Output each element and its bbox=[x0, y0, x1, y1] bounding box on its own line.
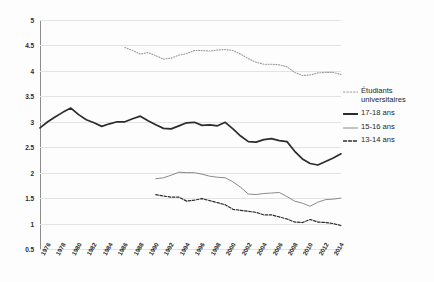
y-axis-tick-label: 2.5 bbox=[25, 144, 34, 151]
series-line bbox=[40, 108, 341, 165]
legend-item-label: 17-18 ans bbox=[361, 108, 395, 117]
y-axis-tick-label: 0.5 bbox=[25, 246, 34, 253]
y-axis-tick-label: 3 bbox=[30, 118, 34, 125]
legend-item-label: Étudiants universitaires bbox=[361, 86, 434, 105]
y-axis-tick-label: 2 bbox=[30, 169, 34, 176]
chart-figure: 0.511.522.533.544.55 1976197819801982198… bbox=[0, 0, 434, 282]
series-line bbox=[156, 172, 341, 206]
series-lines bbox=[40, 20, 341, 249]
plot-area bbox=[40, 20, 341, 249]
legend-swatch-icon bbox=[343, 123, 358, 133]
legend-item[interactable]: Étudiants universitaires bbox=[343, 86, 434, 105]
series-line bbox=[156, 195, 341, 226]
y-axis-tick-label: 5 bbox=[30, 17, 34, 24]
y-axis-tick-label: 1.5 bbox=[25, 195, 34, 202]
legend-swatch-icon bbox=[343, 87, 358, 97]
chart-legend: Étudiants universitaires17-18 ans15-16 a… bbox=[343, 86, 434, 149]
y-axis-tick-label: 3.5 bbox=[25, 93, 34, 100]
y-axis-tick-label: 4 bbox=[30, 67, 34, 74]
legend-swatch-icon bbox=[343, 136, 358, 146]
legend-item-label: 15-16 ans bbox=[361, 122, 395, 131]
legend-item[interactable]: 17-18 ans bbox=[343, 108, 434, 118]
legend-item[interactable]: 15-16 ans bbox=[343, 122, 434, 132]
legend-item-label: 13-14 ans bbox=[361, 135, 395, 144]
y-axis-tick-label: 4.5 bbox=[25, 42, 34, 49]
y-axis-tick-labels: 0.511.522.533.544.55 bbox=[0, 0, 38, 282]
legend-item[interactable]: 13-14 ans bbox=[343, 135, 434, 145]
legend-swatch-icon bbox=[343, 109, 358, 119]
y-axis-tick-label: 1 bbox=[30, 220, 34, 227]
x-axis-tick-labels: 1976197819801982198419861988199019921994… bbox=[40, 250, 341, 282]
series-line bbox=[125, 47, 341, 75]
